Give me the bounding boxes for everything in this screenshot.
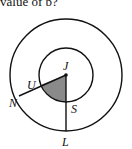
center-point — [64, 73, 68, 77]
concentric-circles-diagram: J U N S L — [0, 0, 132, 149]
label-j: J — [63, 59, 69, 73]
shaded-sector — [42, 75, 67, 102]
label-u: U — [27, 78, 37, 92]
label-n: N — [8, 96, 18, 110]
label-l: L — [61, 135, 69, 149]
label-s: S — [71, 102, 77, 116]
